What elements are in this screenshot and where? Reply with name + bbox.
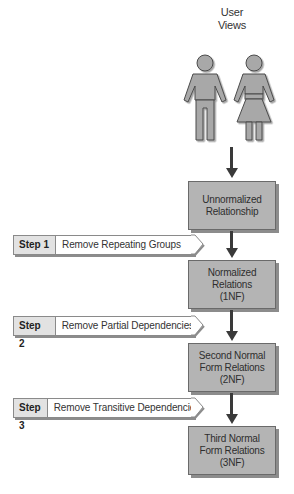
node-text: (2NF) (220, 374, 245, 386)
node-text: Normalized (208, 267, 257, 279)
step-arrow-tip-icon (191, 397, 205, 421)
user-views-title: User Views (202, 6, 262, 32)
step-3-number: Step 3 (14, 399, 48, 417)
arrow-to-unnormalized (229, 147, 235, 179)
step-2-number: Step 2 (14, 317, 56, 335)
user-figures (182, 54, 278, 146)
man-icon (184, 55, 226, 140)
node-text: Form Relations (200, 362, 265, 374)
node-text: Unnormalized (202, 194, 261, 206)
title-line-2: Views (202, 19, 262, 32)
step-1-number: Step 1 (14, 236, 56, 254)
step-arrow-tip-icon (191, 315, 205, 339)
node-3nf: Third Normal Form Relations (3NF) (188, 426, 276, 475)
arrow-to-2nf (229, 310, 235, 342)
node-unnormalized-relationship: Unnormalized Relationship (188, 181, 276, 230)
node-text: Relationship (206, 206, 259, 218)
step-3-label: Remove Transitive Dependencies (48, 399, 201, 417)
node-1nf: Normalized Relations (1NF) (188, 260, 276, 309)
step-1-label: Remove Repeating Groups (56, 236, 181, 254)
step-arrow-tip-icon (191, 234, 205, 258)
node-text: (3NF) (220, 457, 245, 469)
node-text: Relations (212, 279, 252, 291)
node-2nf: Second Normal Form Relations (2NF) (188, 343, 276, 392)
arrow-to-1nf (229, 231, 235, 259)
step-2-label: Remove Partial Dependencies (56, 317, 194, 335)
arrow-to-3nf (229, 393, 235, 425)
woman-icon (234, 55, 274, 140)
node-text: Third Normal (204, 433, 259, 445)
node-text: Form Relations (200, 445, 265, 457)
node-text: Second Normal (199, 350, 265, 362)
node-text: (1NF) (220, 291, 245, 303)
title-line-1: User (202, 6, 262, 19)
